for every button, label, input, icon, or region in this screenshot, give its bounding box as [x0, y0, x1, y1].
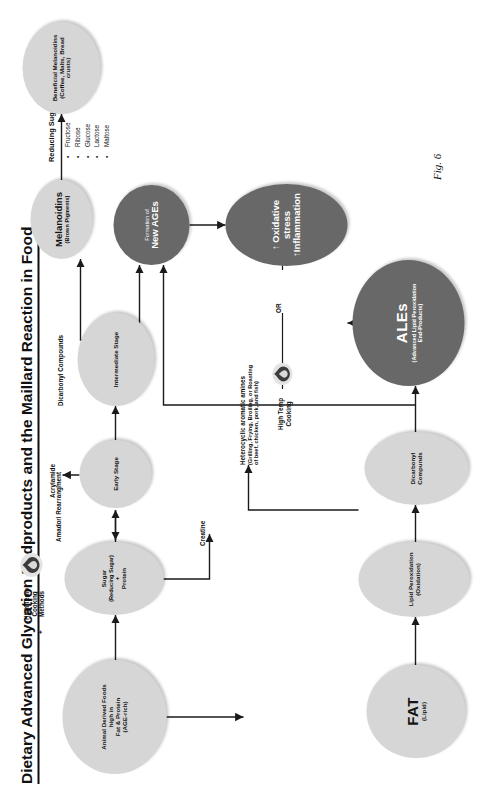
node-dicarbonyl-compounds: Dicarbonyl Compunds: [364, 432, 468, 505]
node-line: Lipid Peroxidation: [407, 544, 414, 615]
node-ales: ALEs (Advanced Lipid Peroxidation End-Pr…: [352, 260, 464, 386]
node-line: crusts): [64, 24, 71, 112]
node-new-ages: Formation of New AGEs: [113, 185, 189, 265]
node-animal-derived-foods: Animal Derived Foods high in Fat & Prote…: [62, 660, 166, 774]
high-temp-cooking-label: High Temp Cooking: [276, 398, 291, 430]
node-line: End-Products): [416, 262, 422, 384]
node-line: Intermediate Stage: [112, 315, 119, 404]
node-line: Compunds: [416, 434, 423, 503]
node-line: (Lipid): [420, 667, 427, 756]
node-beneficial-melanoidins: Beneficial Melanoidins (Coffee, Malts, B…: [22, 22, 100, 114]
creatine-label: Creatine: [198, 521, 206, 546]
list-item-label: Ribose: [72, 127, 82, 147]
node-line: (Brown Pigments): [63, 182, 69, 257]
list-item: • Ribose: [72, 123, 82, 159]
node-sugar-protein: Sugar (Reducing Sugar) + Protein: [64, 542, 163, 615]
label-line: High Temp: [276, 398, 284, 430]
figure-canvas: Dietary Advanced Glycation Endproducts a…: [0, 0, 485, 810]
bullet-icon: •: [91, 154, 101, 158]
label-line: of beef, chicken, pork, and fish): [252, 305, 259, 465]
node-line: Sugar: [100, 544, 107, 613]
bullet-icon: •: [101, 154, 111, 158]
list-item-label: Glucose: [82, 124, 92, 147]
bullet-icon: •: [72, 154, 82, 158]
node-line: (Oxidation): [414, 544, 421, 615]
bullet-icon: •: [82, 154, 92, 158]
label-line: Cooking: [30, 588, 38, 620]
node-melanoidins: Melanoidins (Brown Pigments): [30, 180, 92, 259]
label-line: Methods: [37, 588, 45, 620]
node-line: ↑Inflammation: [291, 186, 302, 264]
figure-number: Fig. 6: [430, 154, 442, 180]
label-line: High Temp: [22, 588, 30, 620]
list-item: • Maltose: [101, 123, 111, 159]
label-line: (Grilling, Frying, Broiling, or Roasting: [246, 305, 253, 465]
list-item-label: Fructose: [62, 123, 72, 148]
node-line: New AGEs: [149, 187, 160, 263]
node-line: (Advanced Lipid Peroxidation: [410, 262, 416, 384]
node-line: Beneficial Melanoidins: [51, 24, 58, 112]
node-oxidative-stress-inflammation: ↑ Oxidative stress ↑Inflammation: [225, 184, 347, 266]
list-item: • Lactose: [91, 123, 101, 159]
list-item: • Glucose: [82, 123, 92, 159]
node-line: Melanoidins: [53, 182, 64, 257]
high-temp-cooking-methods-label: High Temp Cooking Methods: [22, 588, 45, 620]
flame-icon: [18, 552, 44, 578]
acrylamide-label: Acrylamide: [48, 464, 56, 498]
node-line: Early Stage: [112, 442, 119, 506]
label-line: Cooking: [284, 398, 292, 430]
reducing-sugars-list: • Fructose • Ribose • Glucose • Lactose …: [62, 123, 111, 159]
flame-icon: [270, 362, 294, 386]
dicarbonyl-compounds-label: Dicarbonyl Compounds: [56, 335, 64, 406]
node-line: FAT: [404, 667, 421, 756]
or-label: OR: [274, 304, 282, 313]
node-fat-lipid: FAT (Lipid): [366, 665, 465, 758]
node-early-stage: Early Stage: [79, 440, 151, 508]
node-line: (AGE-rich): [121, 662, 128, 772]
bullet-icon: •: [62, 154, 72, 158]
node-line: ↑ Oxidative: [270, 186, 281, 264]
figure-title: Dietary Advanced Glycation Endproducts a…: [17, 226, 39, 784]
list-item-label: Lactose: [91, 125, 101, 147]
node-line: ALEs: [393, 262, 410, 384]
node-line: stress: [281, 186, 292, 264]
heterocyclic-aromatic-amines-label: Heterocyclic aromatic amines (Grilling, …: [238, 305, 259, 465]
label-line: Heterocyclic aromatic amines: [238, 305, 246, 465]
node-lipid-peroxidation: Lipid Peroxidation (Oxidation): [358, 542, 469, 617]
node-intermediate-stage: Intermediate Stage: [77, 313, 154, 406]
list-item-label: Maltose: [101, 125, 111, 147]
node-line: Protein: [120, 544, 127, 613]
plus-sign-label: +: [36, 630, 44, 634]
list-item: • Fructose: [62, 123, 72, 159]
